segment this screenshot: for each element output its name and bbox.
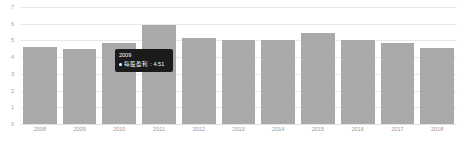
bar[interactable] xyxy=(420,48,454,124)
x-tick-label: 2017 xyxy=(378,126,418,133)
bar-slot[interactable] xyxy=(341,7,375,124)
gridline-0 xyxy=(20,124,457,125)
bar[interactable] xyxy=(222,40,256,124)
y-tick-label: 5 xyxy=(0,37,14,43)
x-tick-label: 2011 xyxy=(139,126,179,133)
y-tick-label: 3 xyxy=(0,71,14,77)
x-tick-label: 2016 xyxy=(338,126,378,133)
bar-chart: 01234567 2008200920102011201220132014201… xyxy=(0,0,461,150)
y-tick-label: 4 xyxy=(0,54,14,60)
bar[interactable] xyxy=(301,33,335,124)
bar-slot[interactable] xyxy=(381,7,415,124)
x-tick-label: 2008 xyxy=(20,126,60,133)
bar-slot[interactable] xyxy=(420,7,454,124)
chart-tooltip: 2009 每股盈利 : 4.51 xyxy=(115,49,173,72)
bar[interactable] xyxy=(381,43,415,124)
y-tick-label: 1 xyxy=(0,104,14,110)
bar-slot[interactable] xyxy=(301,7,335,124)
x-tick-label: 2012 xyxy=(179,126,219,133)
tooltip-marker-icon xyxy=(119,63,122,66)
bar[interactable] xyxy=(23,47,57,124)
bar-slot[interactable] xyxy=(23,7,57,124)
bar-series-layer: 2008200920102011201220132014201520162017… xyxy=(20,7,457,124)
tooltip-title: 2009 xyxy=(119,52,169,59)
x-tick-label: 2010 xyxy=(99,126,139,133)
y-tick-label: 2 xyxy=(0,88,14,94)
tooltip-series-label: 每股盈利 xyxy=(124,60,148,68)
x-tick-label: 2018 xyxy=(417,126,457,133)
bar-slot[interactable] xyxy=(182,7,216,124)
x-tick-label: 2009 xyxy=(60,126,100,133)
tooltip-separator: : xyxy=(150,60,152,68)
y-tick-label: 7 xyxy=(0,4,14,10)
bar[interactable] xyxy=(261,40,295,124)
bar-slot[interactable] xyxy=(261,7,295,124)
tooltip-series-row: 每股盈利 : 4.51 xyxy=(119,60,169,68)
bar-slot[interactable] xyxy=(222,7,256,124)
bar[interactable] xyxy=(341,40,375,124)
x-tick-label: 2014 xyxy=(258,126,298,133)
bar[interactable] xyxy=(182,38,216,124)
bar[interactable] xyxy=(63,49,97,124)
bar[interactable] xyxy=(142,25,176,124)
x-tick-label: 2015 xyxy=(298,126,338,133)
y-tick-label: 6 xyxy=(0,21,14,27)
x-tick-label: 2013 xyxy=(219,126,259,133)
y-tick-label: 0 xyxy=(0,121,14,127)
bar-slot[interactable] xyxy=(63,7,97,124)
tooltip-value: 4.51 xyxy=(154,60,165,68)
